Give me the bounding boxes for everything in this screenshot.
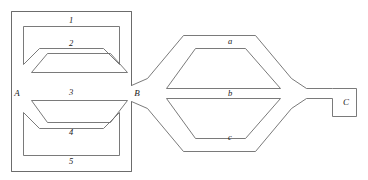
branch-a-inner-outline [167,49,281,89]
left-branch-group: 1 2 3 4 5 [12,12,132,172]
branch-label-c: c [228,132,232,142]
branch-c-outline [148,109,292,152]
branch-label-1: 1 [69,15,73,25]
branch-label-5: 5 [69,156,73,166]
node-b-lower-link [132,102,148,109]
branch-label-b: b [228,88,232,98]
node-label-c: C [343,97,350,107]
branch-2-outline [32,54,128,73]
right-converge-upper [292,79,307,89]
node-labels: A B C [13,88,350,107]
branch-c-inner-outline [167,99,281,139]
branch-label-2: 2 [69,38,74,48]
branch-label-3: 3 [68,87,73,97]
branch-label-a: a [228,36,232,46]
branch-a-outline [148,36,292,79]
node-label-a: A [13,88,20,98]
right-converge-lower [292,99,307,109]
node-label-b: B [134,88,140,98]
node-b-upper-link [132,79,148,86]
network-diagram: 1 2 3 4 5 [0,0,368,180]
right-branch-group: a b c [148,36,357,152]
figure-root: 1 2 3 4 5 [0,0,368,180]
